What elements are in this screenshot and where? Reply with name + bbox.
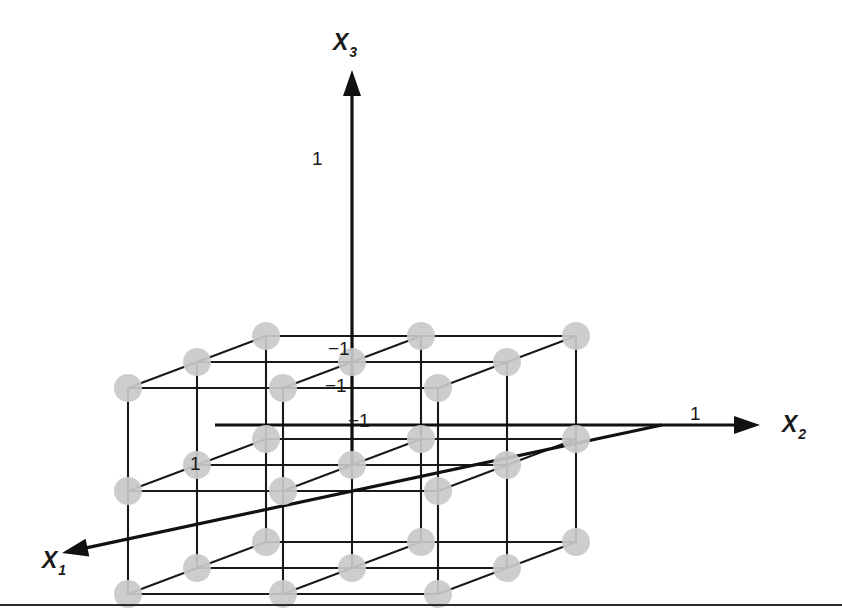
design-point-markers: [114, 322, 590, 608]
tick-label-high-x3: 1: [312, 148, 323, 169]
axis-arrowhead-x3: [343, 70, 361, 96]
design-point-6: [407, 322, 435, 350]
axis-arrows: [62, 70, 760, 556]
design-point-14: [338, 451, 366, 479]
design-point-21: [114, 374, 142, 402]
design-point-20: [114, 477, 142, 505]
design-point-7: [562, 528, 590, 556]
axis-label-x2: X2: [780, 411, 806, 442]
design-point-2: [252, 425, 280, 453]
tick-label-low-x3: −1: [328, 338, 350, 359]
design-point-16: [493, 554, 521, 582]
design-point-27: [424, 374, 452, 402]
design-point-12: [183, 348, 211, 376]
axis-arrowhead-x1: [62, 539, 89, 557]
axis-arrowhead-x2: [734, 416, 760, 434]
design-point-18: [493, 348, 521, 376]
factorial-design-lattice-plot: X11X21X31−1−1−1: [0, 0, 842, 614]
design-point-13: [338, 554, 366, 582]
tick-label-low-x2: −1: [348, 410, 370, 431]
footer-rule: [0, 604, 842, 606]
axis-label-x3: X3: [331, 29, 357, 60]
design-point-24: [269, 374, 297, 402]
tick-label-low-x1: −1: [325, 375, 347, 396]
design-point-3: [252, 322, 280, 350]
design-point-5: [407, 425, 435, 453]
axis-label-subscript-x3: 3: [349, 44, 357, 60]
design-point-4: [407, 528, 435, 556]
design-point-9: [562, 322, 590, 350]
tick-label-high-x1: 1: [190, 453, 201, 474]
axis-label-subscript-x1: 1: [58, 562, 66, 578]
design-point-10: [183, 554, 211, 582]
figure-container: X11X21X31−1−1−1: [0, 0, 842, 614]
figure-text-layer: X11X21X31−1−1−1: [40, 29, 806, 578]
axis-label-subscript-x2: 2: [797, 426, 806, 442]
design-point-1: [252, 528, 280, 556]
axis-label-x1: X1: [40, 547, 66, 578]
design-point-17: [493, 451, 521, 479]
tick-label-high-x2: 1: [690, 403, 701, 424]
design-point-26: [424, 477, 452, 505]
design-point-8: [562, 425, 590, 453]
design-point-23: [269, 477, 297, 505]
